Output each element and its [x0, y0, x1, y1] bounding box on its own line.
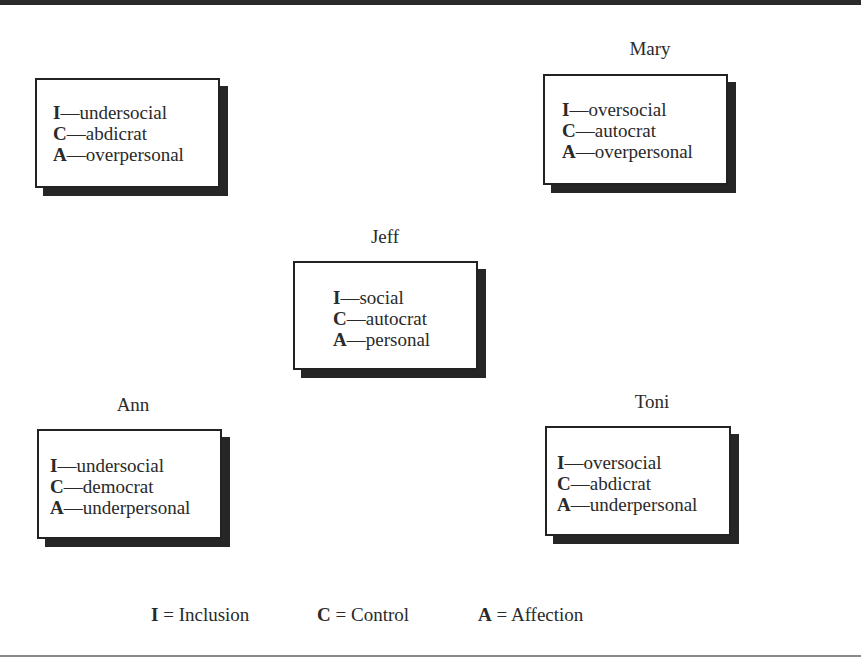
- trait-affection: A—overpersonal: [53, 144, 184, 165]
- trait-affection: A—personal: [333, 329, 430, 350]
- person-name: Ann: [117, 394, 150, 416]
- legend-item-affection: A = Affection: [478, 604, 583, 626]
- trait-inclusion: I—undersocial: [53, 102, 184, 123]
- person-name: Mary: [629, 38, 670, 60]
- legend: I = Inclusion C = Control A = Affection: [0, 604, 861, 632]
- person-name: Toni: [635, 391, 670, 413]
- trait-list: I—oversocial C—autocrat A—overpersonal: [562, 99, 693, 162]
- trait-list: I—undersocial C—abdicrat A—overpersonal: [53, 102, 184, 165]
- trait-list: I—social C—autocrat A—personal: [333, 287, 430, 350]
- trait-control: C—autocrat: [562, 120, 693, 141]
- trait-control: C—abdicrat: [53, 123, 184, 144]
- trait-control: C—abdicrat: [557, 473, 697, 494]
- trait-inclusion: I—oversocial: [562, 99, 693, 120]
- bottom-rule: [0, 655, 861, 657]
- trait-list: I—oversocial C—abdicrat A—underpersonal: [557, 452, 697, 515]
- top-rule: [0, 0, 861, 5]
- trait-affection: A—underpersonal: [557, 494, 697, 515]
- trait-inclusion: I—undersocial: [50, 455, 190, 476]
- trait-control: C—democrat: [50, 476, 190, 497]
- legend-item-inclusion: I = Inclusion: [151, 604, 249, 626]
- trait-affection: A—underpersonal: [50, 497, 190, 518]
- legend-item-control: C = Control: [317, 604, 409, 626]
- person-name: Jeff: [371, 226, 399, 248]
- trait-list: I—undersocial C—democrat A—underpersonal: [50, 455, 190, 518]
- trait-affection: A—overpersonal: [562, 141, 693, 162]
- trait-inclusion: I—social: [333, 287, 430, 308]
- trait-inclusion: I—oversocial: [557, 452, 697, 473]
- trait-control: C—autocrat: [333, 308, 430, 329]
